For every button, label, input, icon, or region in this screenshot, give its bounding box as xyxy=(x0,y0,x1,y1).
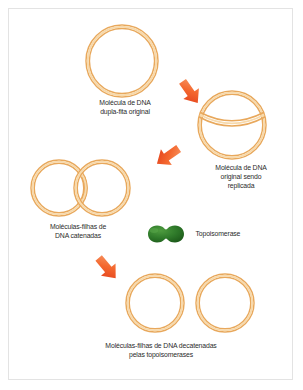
diagram-canvas xyxy=(0,0,303,390)
diagram-figure: Molécula de DNA dupla-fita original Molé… xyxy=(0,0,303,390)
label-decatenated-dna: Moléculas-filhas de DNA decatenadas pela… xyxy=(73,341,250,359)
topoisomerase-enzyme xyxy=(148,226,184,243)
catenated-ring-right xyxy=(74,160,130,216)
original-dna-circle xyxy=(86,25,158,97)
label-topoisomerase: Topoisomerase xyxy=(196,229,289,238)
replicating-dna-circle xyxy=(198,91,266,159)
catenated-dna-rings xyxy=(31,160,130,216)
arrow-catenation xyxy=(151,141,184,172)
catenated-ring-left xyxy=(31,160,87,216)
decatenated-ring-left xyxy=(126,274,184,332)
decatenated-ring-right xyxy=(196,274,254,332)
decatenated-dna-rings xyxy=(126,274,254,332)
label-catenated-dna: Moléculas-filhas de DNA catenadas xyxy=(18,222,137,240)
catenation-interlock xyxy=(82,177,87,199)
label-replicating-dna: Molécula de DNA original sendo replicada xyxy=(193,163,290,191)
arrow-decatenation xyxy=(91,252,123,285)
label-original-dna: Molécula de DNA dupla-fita original xyxy=(66,98,183,116)
